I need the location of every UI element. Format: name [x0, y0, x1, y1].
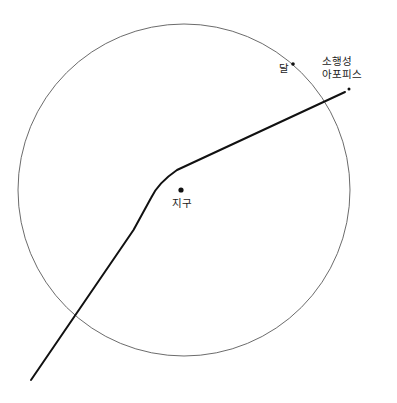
earth-label: 지구 [172, 197, 192, 210]
moon-label: 달 [279, 62, 289, 75]
asteroid-label-line2: 아포피스 [322, 68, 362, 81]
moon-dot [291, 62, 295, 66]
apophis-trajectory-path [31, 92, 345, 380]
diagram-canvas: 지구 달 소행성 아포피스 [0, 0, 397, 403]
asteroid-label-line1: 소행성 [322, 55, 362, 68]
moon-orbit-circle [18, 24, 350, 356]
asteroid-apophis-label: 소행성 아포피스 [322, 55, 362, 80]
asteroid-apophis-dot [348, 88, 351, 91]
earth-dot [178, 187, 183, 192]
